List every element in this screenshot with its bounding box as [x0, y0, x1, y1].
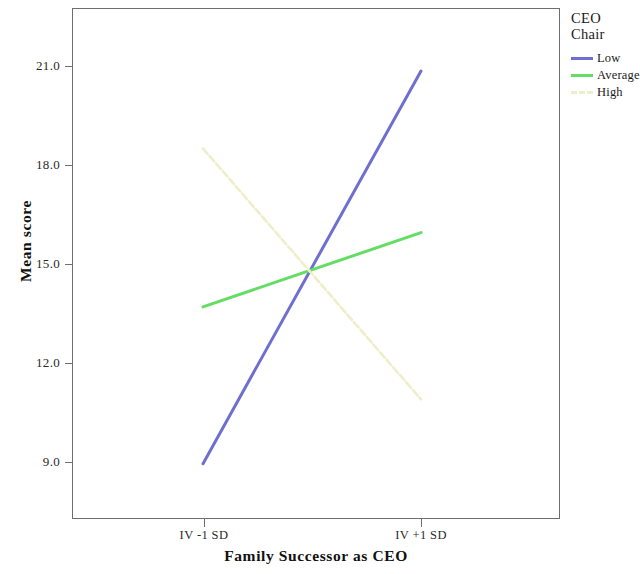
- y-tick-label-21: 21.0: [0, 58, 60, 74]
- legend-label-low: Low: [597, 51, 621, 66]
- x-tick-mark-high: [421, 519, 422, 527]
- legend-swatch-low-icon: [571, 57, 593, 60]
- y-tick-mark-15: [65, 264, 72, 265]
- legend-items: Low Average High: [571, 51, 631, 100]
- legend-swatch-average-icon: [571, 74, 593, 77]
- y-tick-mark-9: [65, 462, 72, 463]
- y-axis-title: Mean score: [17, 171, 35, 311]
- legend-label-average: Average: [597, 68, 640, 83]
- x-tick-label-plus1sd: IV +1 SD: [371, 528, 471, 543]
- y-tick-mark-12: [65, 363, 72, 364]
- legend-item-high[interactable]: High: [571, 85, 631, 100]
- y-tick-label-12: 12.0: [0, 355, 60, 371]
- chart-legend: CEO Chair Low Average High: [571, 10, 631, 102]
- plot-area-frame: [72, 8, 560, 519]
- legend-swatch-high-icon: [571, 91, 593, 94]
- x-axis-title: Family Successor as CEO: [72, 547, 560, 565]
- legend-title-line2: Chair: [571, 26, 631, 42]
- legend-item-average[interactable]: Average: [571, 68, 631, 83]
- y-tick-mark-18: [65, 165, 72, 166]
- legend-item-low[interactable]: Low: [571, 51, 631, 66]
- legend-title-line1: CEO: [571, 10, 631, 26]
- y-tick-mark-21: [65, 66, 72, 67]
- y-tick-label-9: 9.0: [0, 454, 60, 470]
- x-tick-label-minus1sd: IV -1 SD: [154, 528, 254, 543]
- x-tick-mark-low: [204, 519, 205, 527]
- legend-label-high: High: [597, 85, 623, 100]
